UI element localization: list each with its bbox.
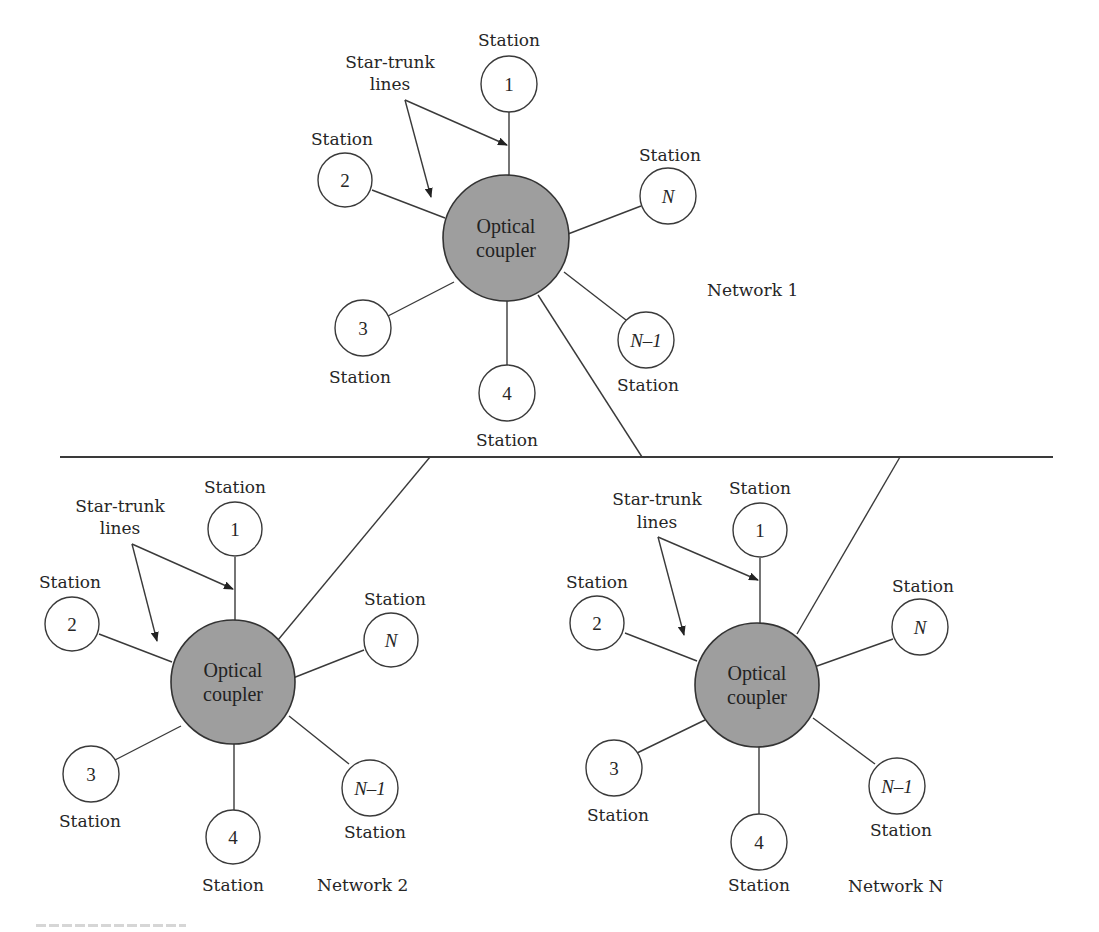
network-label: Network N (848, 876, 943, 896)
svg-text:4: 4 (502, 383, 512, 404)
star-trunk-label-2: lines (637, 512, 678, 532)
network-label: Network 2 (317, 875, 408, 895)
station-4: 4 Station (476, 365, 538, 450)
station-4: 4 Station (202, 810, 264, 895)
svg-text:Station: Station (476, 430, 538, 450)
svg-text:Station: Station (870, 820, 932, 840)
svg-text:3: 3 (609, 758, 619, 779)
optical-coupler (171, 620, 295, 744)
station-n: N Station (364, 589, 426, 667)
svg-text:3: 3 (358, 318, 368, 339)
coupler-label-2: coupler (203, 683, 263, 706)
coupler-label: Optical (728, 662, 787, 685)
coupler-label-2: coupler (476, 239, 536, 262)
station-n-minus-1: N–1 Station (342, 760, 406, 842)
coupler-label-2: coupler (727, 686, 787, 709)
svg-text:N–1: N–1 (880, 776, 913, 797)
svg-text:3: 3 (86, 764, 96, 785)
station-1: 1 Station (204, 477, 266, 556)
star-trunk-label: Star-trunk (345, 52, 435, 72)
svg-text:1: 1 (230, 519, 240, 540)
svg-text:Station: Station (478, 30, 540, 50)
svg-text:Station: Station (204, 477, 266, 497)
clipped-figure-caption (36, 924, 186, 932)
star-trunk-label: Star-trunk (612, 489, 702, 509)
svg-text:N–1: N–1 (353, 778, 386, 799)
svg-text:Station: Station (344, 822, 406, 842)
star-trunk-label-2: lines (370, 74, 411, 94)
svg-text:N: N (913, 617, 928, 638)
station-n: N Station (639, 145, 701, 224)
svg-text:Station: Station (587, 805, 649, 825)
svg-text:Station: Station (729, 478, 791, 498)
svg-text:Station: Station (617, 375, 679, 395)
svg-text:N–1: N–1 (629, 330, 662, 351)
svg-text:2: 2 (592, 613, 602, 634)
network-n: Star-trunk lines Optical coupler 1 Stati… (566, 478, 954, 896)
svg-text:Station: Station (59, 811, 121, 831)
svg-text:4: 4 (754, 832, 764, 853)
svg-text:Station: Station (639, 145, 701, 165)
station-n-minus-1: N–1 Station (869, 758, 932, 840)
svg-text:Station: Station (566, 572, 628, 592)
network-label: Network 1 (707, 280, 798, 300)
svg-text:Station: Station (202, 875, 264, 895)
svg-text:N: N (384, 630, 399, 651)
svg-text:2: 2 (67, 614, 77, 635)
station-n-minus-1: N–1 Station (617, 312, 679, 395)
svg-text:N: N (661, 186, 676, 207)
svg-text:Station: Station (39, 572, 101, 592)
network-1: Star-trunk lines Optical coupler 1 Stati… (311, 30, 798, 450)
svg-text:Station: Station (364, 589, 426, 609)
svg-text:Station: Station (329, 367, 391, 387)
coupler-label: Optical (477, 215, 536, 238)
station-2: 2 Station (39, 572, 101, 651)
svg-text:Station: Station (311, 129, 373, 149)
optical-coupler (695, 623, 819, 747)
star-network-diagram: Star-trunk lines Optical coupler 1 Stati… (0, 0, 1099, 932)
svg-text:4: 4 (228, 827, 238, 848)
svg-text:Station: Station (728, 875, 790, 895)
station-3: 3 Station (586, 740, 649, 825)
station-1: 1 Station (729, 478, 791, 557)
svg-text:1: 1 (755, 520, 765, 541)
star-trunk-label: Star-trunk (75, 496, 165, 516)
station-4: 4 Station (728, 814, 790, 895)
station-3: 3 Station (329, 300, 391, 387)
optical-coupler (443, 175, 569, 301)
station-2: Station 2 Station (311, 129, 373, 207)
svg-text:Station: Station (892, 576, 954, 596)
network-2: Star-trunk lines Optical coupler 1 Stati… (39, 477, 426, 895)
svg-text:1: 1 (504, 74, 514, 95)
station-1: 1 Station (478, 30, 540, 112)
network-2-bus-link (278, 457, 430, 640)
coupler-label: Optical (204, 659, 263, 682)
station-2: 2 Station (566, 572, 628, 650)
network-n-bus-link (797, 457, 900, 634)
station-3: 3 Station (59, 746, 121, 831)
station-n: N Station (892, 576, 954, 655)
svg-text:2: 2 (340, 170, 350, 191)
star-trunk-label-2: lines (100, 518, 141, 538)
